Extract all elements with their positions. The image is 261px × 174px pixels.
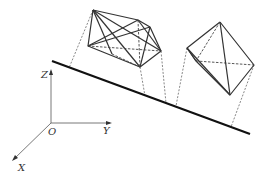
axis-arrowheads (12, 69, 112, 161)
right-hidden-edge (196, 22, 220, 61)
left-hidden-edge (138, 20, 140, 67)
coordinate-axes (14, 71, 110, 159)
projection-line-left-e (140, 67, 145, 96)
projection-line-right-r (231, 65, 254, 127)
projection-line-left-d (161, 51, 166, 103)
right-polyhedron (187, 22, 254, 95)
diagram-canvas: Z Y X O (0, 0, 261, 174)
x-axis-label: X (17, 162, 26, 173)
left-hidden-edge (112, 54, 140, 67)
projection-line-right-l (176, 48, 187, 106)
x-axis (14, 123, 51, 159)
y-axis-label: Y (103, 125, 111, 136)
right-edge (187, 48, 230, 95)
right-edge (187, 48, 196, 61)
left-edge (138, 20, 161, 51)
left-edge (93, 10, 161, 51)
z-axis-label: Z (40, 69, 49, 80)
origin-label: O (48, 126, 56, 137)
left-polyhedron-outline (88, 10, 161, 67)
left-polyhedron (88, 10, 161, 67)
z-arrow-icon (49, 69, 53, 75)
